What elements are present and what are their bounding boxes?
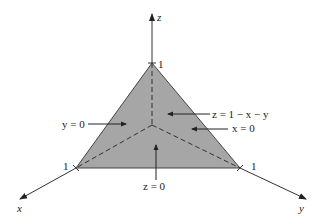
x-axis-label: x <box>16 202 22 214</box>
y-intercept-label: 1 <box>251 160 257 172</box>
x-axis <box>20 168 76 199</box>
y-axis-label: y <box>298 202 304 214</box>
z-zero-label: z = 0 <box>143 180 166 192</box>
diagram-canvas: z x y 1 1 1 y = 0 z = 1 − x − y x = 0 z … <box>0 0 322 220</box>
z-intercept-label: 1 <box>158 58 164 70</box>
x-intercept-label: 1 <box>63 160 69 172</box>
x-zero-label: x = 0 <box>232 122 255 134</box>
z-axis-label: z <box>156 11 162 23</box>
y-zero-label: y = 0 <box>62 118 85 130</box>
plane-equation-label: z = 1 − x − y <box>212 108 269 120</box>
y-axis <box>240 168 306 199</box>
